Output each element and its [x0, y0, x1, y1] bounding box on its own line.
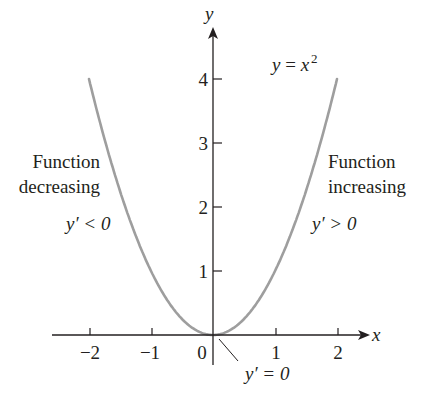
- x-tick-label: 2: [333, 342, 343, 363]
- y-ticks: [213, 79, 222, 271]
- right-annotation-line1: Function: [328, 151, 396, 172]
- x-tick-label: 0: [197, 342, 207, 363]
- right-derivative-label: y′ > 0: [310, 213, 357, 234]
- x-tick-label: −1: [140, 342, 160, 363]
- y-axis-label: y: [203, 3, 214, 24]
- x-tick-label: −2: [80, 342, 100, 363]
- equation-base: x: [300, 54, 310, 75]
- y-tick-label: 1: [199, 261, 209, 282]
- equation-equals: =: [280, 54, 300, 75]
- origin-derivative-label: y′ = 0: [243, 363, 290, 384]
- y-tick-label: 3: [199, 133, 209, 154]
- equation-label: y = x2: [270, 51, 318, 75]
- x-tick-label: 1: [271, 342, 281, 363]
- equation-exponent: 2: [311, 51, 318, 66]
- parabola-diagram: −2 −1 0 1 2 1 2 3 4 x y y = x2 Function …: [0, 0, 434, 403]
- left-derivative-label: y′ < 0: [64, 213, 111, 234]
- x-axis-label: x: [371, 324, 381, 345]
- y-tick-label: 4: [199, 69, 209, 90]
- left-annotation-line1: Function: [32, 151, 100, 172]
- origin-leader-line: [219, 339, 238, 361]
- equation-lhs: y: [270, 54, 281, 75]
- y-tick-label: 2: [199, 197, 209, 218]
- right-annotation-line2: increasing: [328, 176, 407, 197]
- left-annotation-line2: decreasing: [19, 176, 101, 197]
